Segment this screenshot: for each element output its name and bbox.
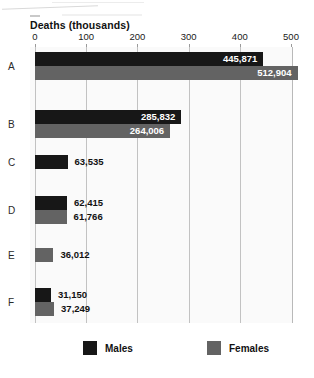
- female-bar-f: [35, 302, 54, 316]
- bar-chart: Deaths (thousands) 0100200300400500 ABCD…: [0, 0, 314, 378]
- legend-item-males: Males: [83, 341, 133, 355]
- x-tick-label: 300: [181, 31, 197, 42]
- gridline: [240, 47, 241, 323]
- female-bar-e: [35, 248, 53, 262]
- category-label-c: C: [8, 157, 15, 168]
- gridline: [86, 47, 87, 323]
- category-label-a: A: [8, 61, 15, 72]
- x-tick-label: 400: [232, 31, 248, 42]
- category-label-e: E: [8, 250, 15, 261]
- female-value-b: 264,006: [35, 124, 164, 138]
- female-value-d: 61,766: [74, 210, 103, 224]
- gridline: [137, 47, 138, 323]
- category-label-b: B: [8, 119, 15, 130]
- gridline: [35, 47, 36, 323]
- female-value-e: 36,012: [60, 248, 89, 262]
- legend-item-females: Females: [207, 341, 269, 355]
- male-bar-d: [35, 196, 67, 210]
- plot-area: [30, 47, 293, 323]
- x-tick-label: 500: [283, 31, 299, 42]
- male-value-a: 445,871: [35, 52, 257, 66]
- chart-title: Deaths (thousands): [30, 19, 130, 31]
- female-bar-d: [35, 210, 67, 224]
- female-value-f: 37,249: [61, 302, 90, 316]
- legend-swatch-females-icon: [207, 341, 221, 355]
- male-value-b: 285,832: [35, 110, 175, 124]
- male-bar-f: [35, 288, 51, 302]
- legend-label-males: Males: [105, 343, 133, 354]
- chart-legend: Males Females: [0, 341, 314, 361]
- x-tick-label: 200: [129, 31, 145, 42]
- category-label-f: F: [8, 297, 14, 308]
- legend-label-females: Females: [229, 343, 269, 354]
- male-value-f: 31,150: [58, 288, 87, 302]
- category-label-d: D: [8, 205, 15, 216]
- x-tick-label: 100: [78, 31, 94, 42]
- female-value-a: 512,904: [35, 66, 292, 80]
- legend-swatch-males-icon: [83, 341, 97, 355]
- male-value-c: 63,535: [75, 155, 104, 169]
- gridline: [189, 47, 190, 323]
- x-tick-label: 0: [32, 31, 37, 42]
- male-value-d: 62,415: [74, 196, 103, 210]
- male-bar-c: [35, 155, 68, 169]
